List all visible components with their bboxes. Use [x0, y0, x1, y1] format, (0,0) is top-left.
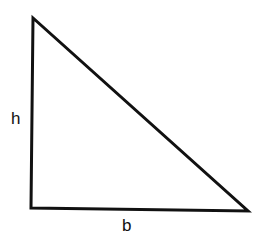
- triangle-diagram: h b: [0, 0, 267, 246]
- base-label: b: [122, 217, 131, 234]
- right-triangle-shape: [31, 18, 248, 211]
- triangle-svg: [0, 0, 267, 246]
- height-label: h: [11, 110, 20, 127]
